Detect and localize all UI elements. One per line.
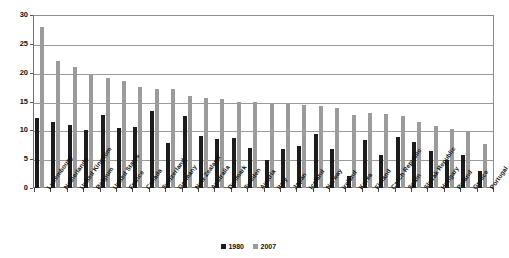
- bar-group: [247, 16, 263, 188]
- bar-1980: [35, 118, 39, 188]
- bar-group: [280, 16, 296, 188]
- legend-swatch: [253, 244, 258, 249]
- bar-group: [149, 16, 165, 188]
- bar-group: [313, 16, 329, 188]
- legend-item: 1980: [221, 243, 244, 250]
- bar-group: [34, 16, 50, 188]
- bar-group: [345, 16, 361, 188]
- bar-group: [329, 16, 345, 188]
- bar-group: [264, 16, 280, 188]
- legend-label: 1980: [228, 243, 244, 250]
- y-axis-tick-label: 15: [2, 98, 28, 106]
- legend-item: 2007: [253, 243, 276, 250]
- chart-legend: 19802007: [0, 239, 497, 253]
- category-axis-labels: LuxembourgNetherlandsUnited KingdomBelgi…: [0, 189, 497, 241]
- bar-group: [460, 16, 476, 188]
- y-axis-tick-label: 30: [2, 11, 28, 19]
- legend-swatch: [221, 244, 226, 249]
- bar-group: [296, 16, 312, 188]
- bar-group: [477, 16, 493, 188]
- bar-group: [231, 16, 247, 188]
- bar-2007: [40, 27, 44, 188]
- y-axis-tick-label: 25: [2, 40, 28, 48]
- legend-label: 2007: [261, 243, 277, 250]
- bar-group: [362, 16, 378, 188]
- bar-2007: [286, 104, 290, 188]
- y-axis-tick-label: 10: [2, 126, 28, 134]
- y-axis-tick-label: 20: [2, 69, 28, 77]
- y-axis-tick-label: 5: [2, 155, 28, 163]
- bar-group: [378, 16, 394, 188]
